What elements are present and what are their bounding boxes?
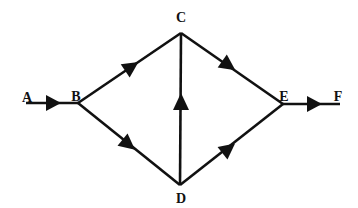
arrow-up-right-icon bbox=[121, 55, 143, 77]
node-label-a: A bbox=[22, 90, 33, 105]
node-label-d: D bbox=[176, 191, 186, 206]
flow-network-diagram: A B C D E F bbox=[0, 0, 358, 208]
node-label-e: E bbox=[279, 89, 288, 104]
arrow-down-right-icon bbox=[218, 54, 240, 76]
node-label-b: B bbox=[71, 89, 80, 104]
arrow-right-icon bbox=[307, 96, 322, 112]
arrow-up-icon bbox=[173, 93, 189, 110]
arrow-right-icon bbox=[46, 95, 61, 111]
node-label-f: F bbox=[334, 89, 343, 104]
node-label-c: C bbox=[176, 10, 186, 25]
